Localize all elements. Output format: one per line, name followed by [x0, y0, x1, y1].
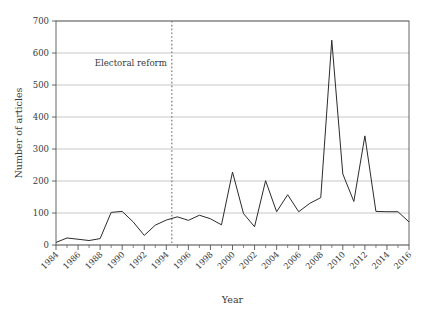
xtick-label-1986: 1986	[61, 249, 83, 271]
xtick-label-2006: 2006	[281, 249, 303, 271]
xtick-label-1994: 1994	[149, 249, 171, 271]
xtick-label-2002: 2002	[237, 249, 259, 271]
xtick-label-2008: 2008	[303, 249, 325, 271]
data-line-0	[56, 40, 409, 242]
xtick-label-2004: 2004	[259, 249, 281, 271]
xtick-label-1998: 1998	[193, 249, 215, 271]
xtick-label-1988: 1988	[83, 249, 105, 271]
xtick-label-1992: 1992	[127, 249, 149, 271]
xtick-label-1984: 1984	[39, 249, 61, 271]
ytick-label-100: 100	[33, 208, 49, 218]
line-chart: 0100200300400500600700198419861988199019…	[0, 0, 434, 311]
y-axis-label: Number of articles	[13, 87, 24, 178]
electoral-reform-marker-label: Electoral reform	[95, 58, 167, 68]
ytick-label-700: 700	[33, 16, 49, 26]
xtick-label-1990: 1990	[105, 249, 127, 271]
x-axis-label: Year	[221, 294, 244, 305]
xtick-label-2000: 2000	[215, 249, 237, 271]
chart-figure: 0100200300400500600700198419861988199019…	[0, 0, 434, 311]
xtick-label-2016: 2016	[392, 249, 414, 271]
xtick-label-2012: 2012	[347, 249, 369, 271]
ytick-label-400: 400	[33, 112, 49, 122]
ytick-label-0: 0	[44, 240, 49, 250]
ytick-label-600: 600	[33, 48, 49, 58]
xtick-label-1996: 1996	[171, 249, 193, 271]
ytick-label-300: 300	[33, 144, 49, 154]
xtick-label-2014: 2014	[370, 249, 392, 271]
plot-frame	[56, 21, 409, 245]
ytick-label-200: 200	[33, 176, 49, 186]
xtick-label-2010: 2010	[325, 249, 347, 271]
ytick-label-500: 500	[33, 80, 49, 90]
